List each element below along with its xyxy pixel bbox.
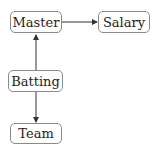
node-batting-label: Batting <box>11 74 60 89</box>
node-batting: Batting <box>8 70 63 92</box>
node-team-label: Team <box>18 126 53 141</box>
node-master-label: Master <box>13 15 60 30</box>
node-salary: Salary <box>98 11 150 33</box>
node-team: Team <box>10 123 62 144</box>
node-master: Master <box>10 11 62 33</box>
node-salary-label: Salary <box>103 15 145 30</box>
